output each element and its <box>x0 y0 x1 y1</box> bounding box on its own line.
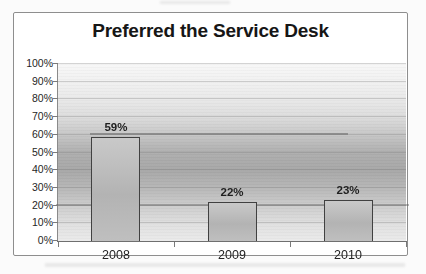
x-axis-tick <box>406 242 407 247</box>
y-tick-label: 50% <box>32 147 53 158</box>
y-axis-tick <box>53 98 58 99</box>
bar <box>91 137 140 241</box>
y-axis-tick <box>53 116 58 117</box>
y-tick-label: 40% <box>32 164 53 175</box>
y-tick-label: 30% <box>32 182 53 193</box>
y-axis-tick <box>53 222 58 223</box>
y-axis-labels: 0%10%20%30%40%50%60%70%80%90%100% <box>16 64 53 241</box>
y-axis-tick <box>53 152 58 153</box>
x-axis-label: 2010 <box>308 248 388 262</box>
bar <box>324 200 373 241</box>
bar-value-label: 22% <box>202 186 262 198</box>
bar <box>208 202 257 241</box>
y-tick-label: 70% <box>32 111 53 122</box>
x-axis-tick <box>174 242 175 247</box>
y-axis-tick <box>53 63 58 64</box>
x-axis-label: 2009 <box>192 248 272 262</box>
scan-smudge <box>160 1 230 4</box>
gridline <box>58 134 406 135</box>
y-tick-label: 100% <box>26 58 53 69</box>
y-axis-tick <box>53 134 58 135</box>
y-axis-tick <box>53 169 58 170</box>
bar-value-label: 59% <box>86 121 146 133</box>
plot-area: 59%200822%200923%2010 <box>57 64 406 241</box>
y-tick-label: 0% <box>38 235 53 246</box>
y-axis-tick <box>53 205 58 206</box>
y-axis-tick <box>53 187 58 188</box>
y-tick-label: 90% <box>32 76 53 87</box>
y-axis-tick <box>53 240 58 241</box>
y-tick-label: 80% <box>32 93 53 104</box>
x-axis-tick <box>290 242 291 247</box>
y-tick-label: 60% <box>32 129 53 140</box>
scan-smudge <box>45 263 405 267</box>
chart-frame: Preferred the Service Desk 0%10%20%30%40… <box>13 12 408 256</box>
y-tick-label: 10% <box>32 217 53 228</box>
bar-value-label: 23% <box>318 184 378 196</box>
gridline <box>58 63 406 64</box>
x-axis-label: 2008 <box>76 248 156 262</box>
y-axis-tick <box>53 81 58 82</box>
gridline <box>58 98 406 99</box>
y-tick-label: 20% <box>32 200 53 211</box>
chart-title: Preferred the Service Desk <box>14 20 407 42</box>
gridline <box>58 116 406 117</box>
gridline <box>58 81 406 82</box>
x-axis-tick <box>58 242 59 247</box>
